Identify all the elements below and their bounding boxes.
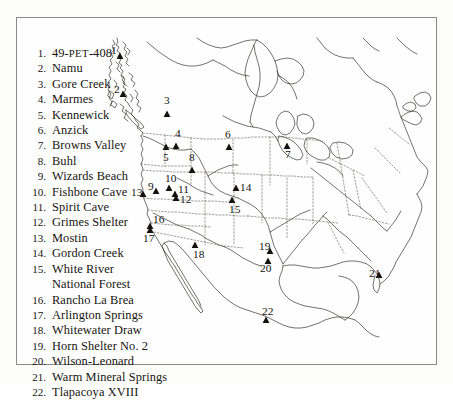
legend-item-label: White River (52, 262, 114, 277)
legend-item: 21.Warm Mineral Springs (27, 370, 177, 385)
legend-item: 19.Horn Shelter No. 2 (27, 339, 177, 354)
legend-item: 17.Arlington Springs (27, 308, 177, 323)
map-site-marker-number: 14 (240, 181, 252, 193)
legend-item: 10.Fishbone Cave (27, 185, 177, 200)
legend-item: 2.Namu (27, 61, 177, 76)
triangle-marker-icon (189, 167, 196, 173)
legend-item-number: 20. (27, 354, 52, 369)
map-site-marker: 22 (262, 305, 274, 323)
site-legend: 1.49-PET-4082.Namu3.Gore Creek4.Marmes5.… (27, 46, 177, 400)
legend-item-number: 7. (27, 138, 52, 153)
legend-item-label: Fishbone Cave (52, 185, 127, 200)
legend-item: 7.Browns Valley (27, 138, 177, 153)
legend-item-number: 16. (27, 293, 52, 308)
legend-item-label: Namu (52, 61, 83, 76)
legend-item-label: Whitewater Draw (52, 323, 142, 338)
legend-item-number: 4. (27, 92, 52, 107)
map-site-marker-number: 15 (229, 203, 241, 215)
legend-item: 13.Mostin (27, 231, 177, 246)
legend-item-number: 22. (27, 385, 52, 400)
legend-item-number: 14. (27, 246, 52, 261)
legend-item-number: 5. (27, 108, 52, 123)
legend-item-label: Anzick (52, 123, 88, 138)
legend-item: 15.White River (27, 262, 177, 277)
legend-item: 11.Spirit Cave (27, 200, 177, 215)
legend-item-label: Buhl (52, 154, 77, 169)
legend-item: 22.Tlapacoya XVIII (27, 385, 177, 400)
map-frame: 12345678910111213141516171819202122 1.49… (16, 17, 437, 365)
legend-item-label: Wizards Beach (52, 169, 128, 184)
legend-item-number: 12. (27, 215, 52, 230)
legend-item-label: Kennewick (52, 108, 109, 123)
legend-item-number: 1. (27, 46, 52, 61)
legend-item-continuation: National Forest (27, 277, 177, 292)
map-site-marker: 8 (189, 151, 196, 173)
legend-item-label: Horn Shelter No. 2 (52, 339, 148, 354)
legend-item-number: 10. (27, 185, 52, 200)
legend-item: 9.Wizards Beach (27, 169, 177, 184)
legend-item-label: Wilson-Leonard (52, 354, 134, 369)
legend-item-label: Browns Valley (52, 138, 126, 153)
legend-item-label: 49-PET-408 (52, 46, 112, 61)
legend-item-label: Spirit Cave (52, 200, 109, 215)
triangle-marker-icon (229, 197, 236, 203)
legend-item-number: 15. (27, 262, 52, 277)
legend-item-number: 11. (27, 200, 52, 215)
legend-item-number: 19. (27, 339, 52, 354)
legend-item-label: Warm Mineral Springs (52, 370, 167, 385)
legend-item: 5.Kennewick (27, 108, 177, 123)
legend-item: 6.Anzick (27, 123, 177, 138)
legend-item-label: Tlapacoya XVIII (52, 385, 138, 400)
legend-item: 3.Gore Creek (27, 77, 177, 92)
map-site-marker-number: 7 (285, 148, 291, 160)
map-site-marker: 20 (260, 258, 272, 274)
map-site-marker-number: 6 (225, 128, 231, 140)
legend-item: 1.49-PET-408 (27, 46, 177, 61)
legend-item: 20.Wilson-Leonard (27, 354, 177, 369)
legend-item-number: 8. (27, 154, 52, 169)
legend-item-continuation-label: National Forest (27, 277, 130, 292)
legend-item-number: 18. (27, 323, 52, 338)
legend-item-number: 13. (27, 231, 52, 246)
legend-item-label: Marmes (52, 92, 93, 107)
map-site-marker-number: 12 (180, 193, 192, 205)
legend-item-label: Gore Creek (52, 77, 110, 92)
legend-item: 14.Gordon Creek (27, 246, 177, 261)
map-site-marker: 6 (225, 128, 232, 150)
map-site-marker-number: 18 (193, 248, 205, 260)
triangle-marker-icon (226, 144, 233, 150)
legend-item-label: Mostin (52, 231, 88, 246)
legend-item-label: Arlington Springs (52, 308, 143, 323)
map-site-marker: 18 (192, 242, 205, 260)
map-site-marker-number: 21 (369, 267, 381, 279)
legend-item-label: Grimes Shelter (52, 215, 128, 230)
legend-item-number: 17. (27, 308, 52, 323)
legend-item: 8.Buhl (27, 154, 177, 169)
map-site-marker-number: 22 (262, 305, 274, 317)
map-site-marker: 21 (369, 267, 382, 279)
map-site-marker-number: 8 (189, 151, 195, 163)
legend-item-label: Gordon Creek (52, 246, 124, 261)
legend-item: 16.Rancho La Brea (27, 293, 177, 308)
legend-item-label-smallcaps: PET (69, 48, 89, 59)
legend-item-number: 6. (27, 123, 52, 138)
map-site-marker: 14 (233, 181, 252, 193)
map-site-marker-number: 20 (260, 262, 272, 274)
triangle-marker-icon (192, 242, 199, 248)
legend-item: 12.Grimes Shelter (27, 215, 177, 230)
legend-item-number: 3. (27, 77, 52, 92)
legend-item: 4.Marmes (27, 92, 177, 107)
legend-item-number: 2. (27, 61, 52, 76)
triangle-marker-icon (233, 185, 240, 191)
map-site-marker: 7 (284, 143, 291, 160)
map-site-marker-number: 19 (259, 240, 271, 252)
legend-item-number: 21. (27, 370, 52, 385)
legend-item-number: 9. (27, 169, 52, 184)
map-site-marker: 19 (259, 240, 273, 254)
legend-item-label: Rancho La Brea (52, 293, 134, 308)
map-site-marker: 15 (229, 197, 241, 215)
legend-item: 18.Whitewater Draw (27, 323, 177, 338)
